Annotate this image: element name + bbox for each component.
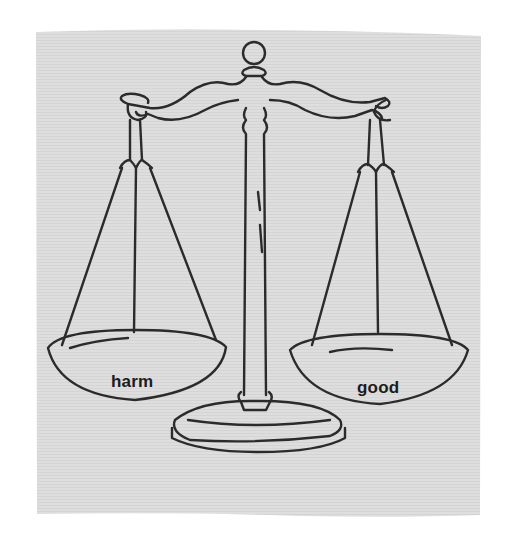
scale-drawing <box>0 0 510 552</box>
right-pan-label: good <box>357 378 399 398</box>
left-pan-label: harm <box>111 372 153 392</box>
paper-background <box>36 29 481 516</box>
balance-scale-illustration: harm good <box>0 0 510 552</box>
